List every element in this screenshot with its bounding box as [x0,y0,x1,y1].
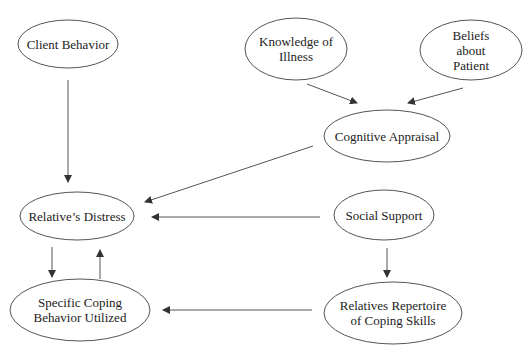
arrow-knowledge-of-illness-to-cognitive-appraisal [307,84,357,103]
arrow-beliefs-about-patient-to-cognitive-appraisal [408,88,463,103]
node-relatives-distress-label: Relative’s Distress [28,209,125,224]
node-social-support-label: Social Support [346,208,423,223]
node-relatives-repertoire-label: Relatives Repertoire of Coping Skills [340,298,447,328]
node-knowledge-of-illness-label: Knowledge of Illness [259,34,333,64]
node-specific-coping-behavior-label: Specific Coping Behavior Utilized [34,295,127,325]
arrow-cognitive-appraisal-to-relatives-distress [145,146,313,202]
node-client-behavior-label: Client Behavior [27,37,110,52]
edges-layer [52,80,463,310]
node-beliefs-about-patient-label: Beliefs about Patient [442,28,501,73]
node-cognitive-appraisal-label: Cognitive Appraisal [335,129,439,144]
